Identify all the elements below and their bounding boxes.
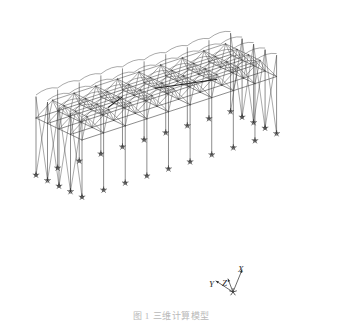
model-viewport: Y Z X 图 1 三维计算模型 — [0, 0, 342, 322]
axis-label-x: X — [237, 264, 244, 274]
space-frame-wireframe: Y Z X — [0, 0, 342, 322]
canvas-background — [0, 0, 342, 322]
figure-caption: 图 1 三维计算模型 — [0, 311, 342, 322]
